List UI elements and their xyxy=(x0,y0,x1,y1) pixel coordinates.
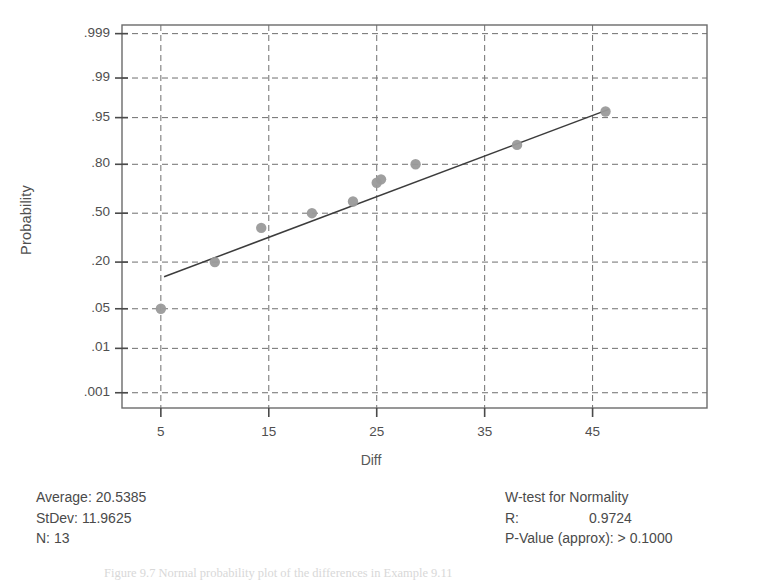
data-point xyxy=(156,304,166,314)
y-axis-title-text: Probability xyxy=(18,140,34,300)
y-axis-tick-label: .01 xyxy=(48,339,110,354)
data-point xyxy=(512,140,522,150)
y-axis-tick-label: .20 xyxy=(48,253,110,268)
pvalue-row: P-Value (approx): > 0.1000 xyxy=(505,528,672,549)
gridlines-group xyxy=(122,25,707,408)
descriptive-statistics-block: Average: 20.5385 StDev: 11.9625 N: 13 xyxy=(36,487,146,549)
data-point xyxy=(348,196,358,206)
data-point xyxy=(307,208,317,218)
average-row: Average: 20.5385 xyxy=(36,487,146,508)
reference-fit-line xyxy=(164,109,609,276)
y-axis-title: Probability xyxy=(18,0,34,140)
x-axis-tick-label: 45 xyxy=(573,424,613,439)
x-axis-title-text: Diff xyxy=(361,452,382,468)
stdev-value: 11.9625 xyxy=(82,508,132,529)
fit-line xyxy=(164,109,609,276)
w-test-heading: W-test for Normality xyxy=(505,487,672,508)
y-axis-tick-label: .999 xyxy=(48,25,110,40)
w-test-statistics-block: W-test for Normality R:0.9724 P-Value (a… xyxy=(505,487,672,549)
n-value: 13 xyxy=(54,528,70,549)
y-axis-tick-label: .001 xyxy=(48,384,110,399)
probability-plot-canvas xyxy=(0,0,780,470)
pvalue-value: > 0.1000 xyxy=(618,528,673,549)
data-point xyxy=(256,223,266,233)
stdev-row: StDev: 11.9625 xyxy=(36,508,146,529)
r-row: R:0.9724 xyxy=(505,508,672,529)
r-value: 0.9724 xyxy=(589,508,632,529)
plot-frame-rect xyxy=(122,25,707,408)
x-axis-title: Diff xyxy=(0,452,780,468)
plot-frame xyxy=(122,25,707,408)
data-point xyxy=(600,106,610,116)
data-point xyxy=(410,159,420,169)
n-row: N: 13 xyxy=(36,528,146,549)
r-label: R: xyxy=(505,508,589,529)
data-points-group xyxy=(156,106,611,314)
y-axis-tick-label: .05 xyxy=(48,300,110,315)
y-axis-tick-label: .99 xyxy=(48,69,110,84)
y-axis-tick-label: .95 xyxy=(48,109,110,124)
average-label: Average: xyxy=(36,487,92,508)
stdev-label: StDev: xyxy=(36,508,78,529)
y-axis-tick-label: .50 xyxy=(48,204,110,219)
x-axis-tick-label: 35 xyxy=(465,424,505,439)
x-axis-tick-label: 5 xyxy=(141,424,181,439)
figure-caption: Figure 9.7 Normal probability plot of th… xyxy=(104,566,704,581)
n-label: N: xyxy=(36,528,50,549)
y-axis-tick-label: .80 xyxy=(48,155,110,170)
average-value: 20.5385 xyxy=(96,487,147,508)
axis-tick-marks xyxy=(115,34,593,417)
x-axis-tick-label: 15 xyxy=(249,424,289,439)
x-axis-tick-label: 25 xyxy=(357,424,397,439)
data-point xyxy=(376,174,386,184)
pvalue-label: P-Value (approx): xyxy=(505,528,614,549)
data-point xyxy=(210,257,220,267)
